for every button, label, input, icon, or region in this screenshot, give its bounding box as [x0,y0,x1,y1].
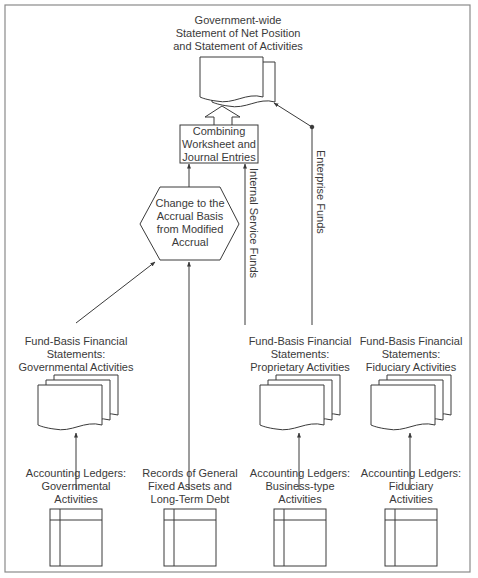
ledger-icon [385,509,437,566]
fund-proprietary-label: Fund-Basis Financial Statements: Proprie… [249,335,352,374]
ledger-icon [274,509,326,566]
ledger-fiduciary-label: Accounting Ledgers: Fiduciary Activities [361,467,461,506]
ledger-icon [164,509,216,566]
hollow-arrow-icon [205,106,240,125]
ledger-icon [50,509,102,566]
records-general-label: Records of General Fixed Assets and Long… [142,467,237,506]
ledger-governmental-label: Accounting Ledgers: Governmental Activit… [26,467,126,506]
junction-dot [310,125,314,129]
document-icon [200,57,275,107]
stacked-documents-icon [260,375,340,430]
combining-label: Combining Worksheet and Journal Entries [182,125,256,164]
diagram-canvas: Government-wide Statement of Net Positio… [0,0,478,578]
gov-wide-label: Government-wide Statement of Net Positio… [173,14,303,53]
stacked-documents-icon [38,375,118,430]
fund-fiduciary-label: Fund-Basis Financial Statements: Fiducia… [360,335,463,374]
internal-service-funds-label: Internal Service Funds [247,168,260,278]
accrual-change-label: Change to the Accrual Basis from Modifie… [155,197,224,249]
fund-governmental-label: Fund-Basis Financial Statements: Governm… [19,335,134,374]
ledger-business-label: Accounting Ledgers: Business-type Activi… [250,467,350,506]
enterprise-funds-label: Enterprise Funds [314,150,327,234]
stacked-documents-icon [371,375,451,430]
